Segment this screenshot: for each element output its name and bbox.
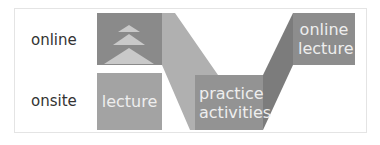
row-label-online: online xyxy=(31,31,77,49)
onsite-lecture-label: lecture xyxy=(97,73,162,130)
practice-label: practice activities xyxy=(195,75,263,130)
row-label-onsite: onsite xyxy=(31,92,77,110)
practice-text: practice activities xyxy=(199,84,259,122)
online-lecture-text: online lecture xyxy=(298,20,350,58)
online-lecture-label: online lecture xyxy=(293,13,355,65)
